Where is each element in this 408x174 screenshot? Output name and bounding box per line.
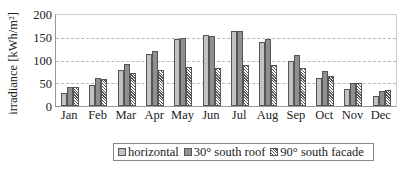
- x-tick-label: Jan: [55, 108, 84, 123]
- x-tick-label: Sep: [281, 108, 310, 123]
- x-tick-label: Feb: [83, 108, 112, 123]
- bar-group-aug: [254, 15, 282, 106]
- bar: [243, 65, 249, 106]
- bar: [271, 65, 277, 106]
- legend-item: 90° south facade: [270, 145, 363, 160]
- bar: [385, 90, 391, 106]
- bar-group-jun: [198, 15, 226, 106]
- legend-swatch-icon: [270, 148, 278, 156]
- bar-group-nov: [339, 15, 367, 106]
- legend-item: horizontal: [118, 145, 179, 160]
- legend-item: 30° south roof: [184, 145, 266, 160]
- bar-group-mar: [113, 15, 141, 106]
- bar: [158, 70, 164, 106]
- x-tick-label: May: [168, 108, 197, 123]
- bar-group-oct: [311, 15, 339, 106]
- bar: [300, 68, 306, 106]
- y-tick-label: 50: [26, 78, 52, 90]
- x-tick-label: Apr: [140, 108, 169, 123]
- legend-swatch-icon: [184, 148, 192, 156]
- y-tick-label: 150: [26, 32, 52, 44]
- x-tick-label: Jul: [225, 108, 254, 123]
- bar-group-dec: [368, 15, 396, 106]
- bar: [73, 87, 79, 106]
- bar: [186, 67, 192, 106]
- bar-group-apr: [141, 15, 169, 106]
- legend: horizontal30° south roof90° south facade: [113, 143, 374, 161]
- legend-label: 90° south facade: [280, 145, 363, 160]
- bar-group-may: [169, 15, 197, 106]
- y-tick-label: 100: [26, 55, 52, 67]
- x-tick-label: Aug: [253, 108, 282, 123]
- legend-swatch-icon: [118, 148, 126, 156]
- bar-group-jul: [226, 15, 254, 106]
- bar: [328, 76, 334, 106]
- bar-group-feb: [84, 15, 112, 106]
- x-tick-label: Mar: [111, 108, 140, 123]
- y-tick-label: 200: [26, 9, 52, 21]
- x-tick-label: Oct: [310, 108, 339, 123]
- x-tick-label: Dec: [366, 108, 395, 123]
- y-axis-title: irradiance [kWh/m²]: [6, 12, 21, 115]
- legend-label: 30° south roof: [194, 145, 266, 160]
- bar: [215, 68, 221, 106]
- bar: [356, 83, 362, 106]
- plot-area: [55, 14, 397, 107]
- x-tick-label: Nov: [338, 108, 367, 123]
- bar-group-jan: [56, 15, 84, 106]
- y-tick-label: 0: [26, 101, 52, 113]
- x-tick-label: Jun: [196, 108, 225, 123]
- bar: [101, 79, 107, 106]
- legend-label: horizontal: [128, 145, 179, 160]
- bar-group-sep: [283, 15, 311, 106]
- bar: [130, 73, 136, 106]
- y-axis-label: irradiance [kWh/m²]: [2, 8, 24, 118]
